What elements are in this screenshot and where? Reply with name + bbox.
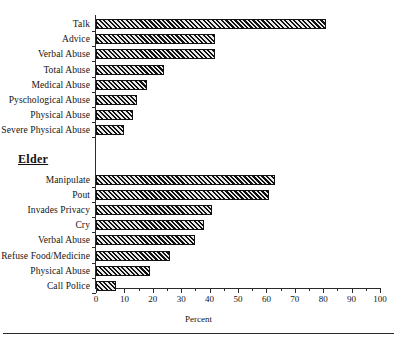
- x-axis-tick-major: [352, 288, 353, 293]
- chart-row: Physical Abuse: [0, 265, 397, 280]
- bar: [96, 235, 195, 245]
- footer-divider: [3, 333, 394, 334]
- x-axis-tick-label: 20: [138, 294, 168, 304]
- category-label: Advice: [0, 33, 90, 45]
- x-axis-tick-major: [323, 288, 324, 293]
- x-axis-tick-minor: [167, 288, 168, 291]
- bar: [96, 190, 269, 200]
- bar: [96, 205, 212, 215]
- category-label: Total Abuse: [0, 64, 90, 76]
- y-axis-tick: [92, 232, 96, 233]
- x-axis-tick-major: [181, 288, 182, 293]
- category-label: Medical Abuse: [0, 79, 90, 91]
- x-axis-tick-major: [295, 288, 296, 293]
- chart-row: Medical Abuse: [0, 79, 397, 94]
- x-axis-tick-label: 70: [280, 294, 310, 304]
- x-axis-tick-minor: [195, 288, 196, 291]
- category-label: Invades Privacy: [0, 204, 90, 216]
- y-axis-tick: [92, 122, 96, 123]
- x-axis-title: Percent: [0, 314, 397, 324]
- x-axis-tick-label: 40: [195, 294, 225, 304]
- chart-row: Invades Privacy: [0, 204, 397, 219]
- bar: [96, 95, 137, 105]
- category-label: Verbal Abuse: [0, 48, 90, 60]
- chart-row: Total Abuse: [0, 64, 397, 79]
- x-axis-tick-minor: [139, 288, 140, 291]
- bar-chart: TalkAdviceVerbal AbuseTotal AbuseMedical…: [0, 0, 397, 342]
- bar: [96, 125, 124, 135]
- y-axis-tick: [92, 77, 96, 78]
- x-axis-tick-label: 90: [337, 294, 367, 304]
- x-axis-tick-major: [266, 288, 267, 293]
- chart-row: Verbal Abuse: [0, 234, 397, 249]
- category-label: Refuse Food/Medicine: [0, 250, 90, 262]
- bar: [96, 175, 275, 185]
- chart-row: Physical Abuse: [0, 109, 397, 124]
- y-axis-tick: [92, 46, 96, 47]
- bar: [96, 80, 147, 90]
- x-axis-tick-minor: [224, 288, 225, 291]
- chart-row: Severe Physical Abuse: [0, 124, 397, 139]
- category-label: Pyschological Abuse: [0, 94, 90, 106]
- y-axis-tick: [92, 187, 96, 188]
- bar: [96, 34, 215, 44]
- chart-row: Cry: [0, 219, 397, 234]
- x-axis-tick-minor: [366, 288, 367, 291]
- x-axis-tick-major: [210, 288, 211, 293]
- category-label: Manipulate: [0, 174, 90, 186]
- x-axis-tick-minor: [252, 288, 253, 291]
- y-axis-tick: [92, 137, 96, 138]
- x-axis-tick-minor: [337, 288, 338, 291]
- x-axis-tick-label: 30: [166, 294, 196, 304]
- y-axis-tick: [92, 263, 96, 264]
- bar: [96, 19, 326, 29]
- x-axis-tick-major: [124, 288, 125, 293]
- y-axis-tick: [92, 247, 96, 248]
- x-axis-tick-major: [96, 288, 97, 293]
- x-axis-tick-label: 0: [81, 294, 111, 304]
- bar: [96, 220, 204, 230]
- y-axis-tick: [92, 202, 96, 203]
- x-axis-tick-minor: [309, 288, 310, 291]
- category-label: Call Police: [0, 280, 90, 292]
- bar: [96, 281, 116, 291]
- category-label: Talk: [0, 18, 90, 30]
- x-axis-tick-label: 10: [109, 294, 139, 304]
- x-axis-tick-label: 100: [365, 294, 395, 304]
- group-heading-elder: Elder: [18, 152, 48, 167]
- category-label: Physical Abuse: [0, 265, 90, 277]
- y-axis-tick: [92, 278, 96, 279]
- category-label: Cry: [0, 219, 90, 231]
- y-axis-tick: [92, 31, 96, 32]
- x-axis-tick-label: 60: [251, 294, 281, 304]
- category-label: Severe Physical Abuse: [0, 124, 90, 136]
- bar: [96, 110, 133, 120]
- chart-row: Manipulate: [0, 174, 397, 189]
- chart-row: Pyschological Abuse: [0, 94, 397, 109]
- y-axis-tick: [92, 92, 96, 93]
- x-axis-tick-minor: [110, 288, 111, 291]
- y-axis-tick: [92, 217, 96, 218]
- chart-row: Advice: [0, 33, 397, 48]
- x-axis-tick-label: 80: [308, 294, 338, 304]
- bar: [96, 266, 150, 276]
- bar: [96, 49, 215, 59]
- x-axis-tick-major: [153, 288, 154, 293]
- y-axis-tick: [92, 61, 96, 62]
- y-axis-tick: [92, 107, 96, 108]
- chart-row: Verbal Abuse: [0, 48, 397, 63]
- chart-row: Pout: [0, 189, 397, 204]
- x-axis-tick-label: 50: [223, 294, 253, 304]
- x-axis-tick-major: [380, 288, 381, 293]
- category-label: Pout: [0, 189, 90, 201]
- bar: [96, 251, 170, 261]
- x-axis-tick-minor: [281, 288, 282, 291]
- category-label: Physical Abuse: [0, 109, 90, 121]
- bar: [96, 65, 164, 75]
- chart-row: Refuse Food/Medicine: [0, 250, 397, 265]
- category-label: Verbal Abuse: [0, 234, 90, 246]
- x-axis-tick-major: [238, 288, 239, 293]
- chart-row: Talk: [0, 18, 397, 33]
